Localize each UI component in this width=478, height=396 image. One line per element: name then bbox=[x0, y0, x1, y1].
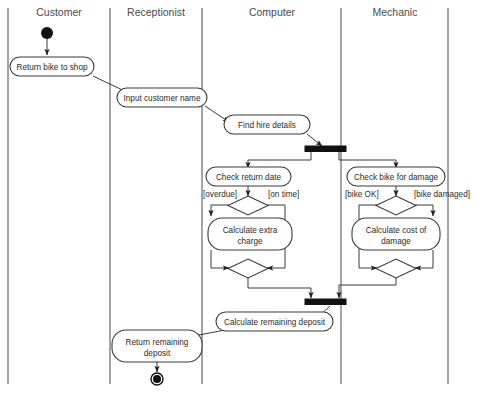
lane-heading-receptionist: Receptionist bbox=[127, 6, 185, 18]
action-return-remaining-deposit-label-line2: deposit bbox=[144, 349, 171, 358]
action-calculate-cost-of-damage[interactable]: Calculate cost of damage bbox=[352, 218, 440, 250]
decision-bike-condition bbox=[376, 196, 416, 215]
action-check-bike-for-damage[interactable]: Check bike for damage bbox=[347, 167, 445, 186]
flow-overdue-to-calc-extra bbox=[211, 205, 229, 216]
merge-bike-condition-shape bbox=[376, 259, 416, 278]
merge-return-date bbox=[228, 259, 268, 278]
flow-fork-to-check-bike-damage bbox=[339, 152, 396, 168]
action-check-bike-for-damage-label: Check bike for damage bbox=[354, 173, 439, 182]
action-calculate-extra-charge[interactable]: Calculate extra charge bbox=[208, 218, 292, 250]
action-calculate-extra-charge-label-line1: Calculate extra bbox=[223, 226, 278, 235]
action-calculate-cost-of-damage-label-line2: damage bbox=[381, 237, 411, 246]
flow-merge-right-to-join bbox=[339, 277, 396, 298]
action-calculate-cost-of-damage-label-line1: Calculate cost of bbox=[366, 226, 427, 235]
lane-heading-mechanic: Mechanic bbox=[373, 6, 418, 18]
initial-node-dot bbox=[41, 27, 53, 39]
final-node bbox=[151, 373, 163, 385]
initial-node bbox=[41, 27, 53, 39]
fork-bar bbox=[305, 146, 346, 152]
flow-merge-left-to-join bbox=[248, 277, 311, 298]
flow-find-hire-to-fork bbox=[307, 134, 322, 146]
action-calculate-remaining-deposit-label: Calculate remaining deposit bbox=[224, 318, 326, 327]
action-return-bike-to-shop-label: Return bike to shop bbox=[16, 63, 87, 72]
flow-calc-extra-to-merge-left bbox=[211, 250, 229, 268]
lane-heading-customer: Customer bbox=[36, 6, 82, 18]
action-return-bike-to-shop[interactable]: Return bike to shop bbox=[10, 57, 94, 76]
fork-bar-shape bbox=[305, 146, 346, 152]
flow-calc-damage-to-merge-right bbox=[415, 250, 433, 268]
action-find-hire-details-label: Find hire details bbox=[238, 121, 296, 130]
final-node-dot bbox=[153, 375, 161, 383]
join-bar-shape bbox=[305, 299, 346, 305]
flow-fork-to-check-return-date bbox=[248, 152, 311, 168]
action-input-customer-name[interactable]: Input customer name bbox=[117, 88, 207, 107]
action-calculate-remaining-deposit[interactable]: Calculate remaining deposit bbox=[216, 312, 333, 331]
guard-labels: [overdue] [on time] [bike OK] [bike dama… bbox=[203, 190, 470, 199]
action-find-hire-details[interactable]: Find hire details bbox=[224, 115, 310, 134]
diagram-svg: Customer Receptionist Computer Mechanic bbox=[0, 0, 478, 396]
action-calculate-extra-charge-label-line2: charge bbox=[237, 237, 262, 246]
action-check-return-date-label: Check return date bbox=[216, 173, 282, 182]
flow-bike-damaged-to-calc-damage bbox=[415, 205, 433, 216]
activity-diagram-canvas: Customer Receptionist Computer Mechanic bbox=[0, 0, 478, 396]
action-input-customer-name-label: Input customer name bbox=[124, 94, 201, 103]
merge-return-date-shape bbox=[228, 259, 268, 278]
guard-label-overdue: [overdue] bbox=[203, 190, 237, 199]
action-return-remaining-deposit[interactable]: Return remaining deposit bbox=[112, 330, 202, 362]
lane-heading-computer: Computer bbox=[249, 6, 296, 18]
guard-label-bike-damaged: [bike damaged] bbox=[414, 190, 470, 199]
merge-bike-condition bbox=[376, 259, 416, 278]
lane-headings: Customer Receptionist Computer Mechanic bbox=[36, 6, 417, 18]
join-bar bbox=[305, 299, 346, 305]
action-check-return-date[interactable]: Check return date bbox=[206, 167, 291, 186]
decision-bike-condition-shape bbox=[376, 196, 416, 215]
guard-label-bike-ok: [bike OK] bbox=[345, 190, 379, 199]
guard-label-on-time: [on time] bbox=[268, 190, 299, 199]
action-return-remaining-deposit-label-line1: Return remaining bbox=[126, 338, 189, 347]
